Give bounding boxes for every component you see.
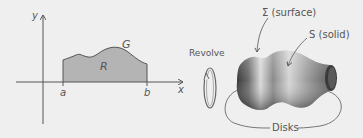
surface-pointer-arrow <box>257 18 268 52</box>
solid-of-revolution-diagram: y x G R a b Revolve Σ (surface) S ( <box>0 0 363 138</box>
surface-label: Σ (surface) <box>262 7 316 18</box>
tick-b-label: b <box>144 87 150 98</box>
region-r-label: R <box>100 60 108 73</box>
tick-a-label: a <box>60 87 66 98</box>
solid-of-revolution <box>225 51 341 128</box>
revolve-arrow-icon <box>204 68 216 108</box>
disks-label: Disks <box>272 122 299 133</box>
curve-g-label: G <box>122 38 131 51</box>
solid-label: S (solid) <box>309 29 350 40</box>
y-axis-label: y <box>31 10 39 21</box>
x-axis-label: x <box>177 84 184 95</box>
revolve-label: Revolve <box>189 48 225 58</box>
